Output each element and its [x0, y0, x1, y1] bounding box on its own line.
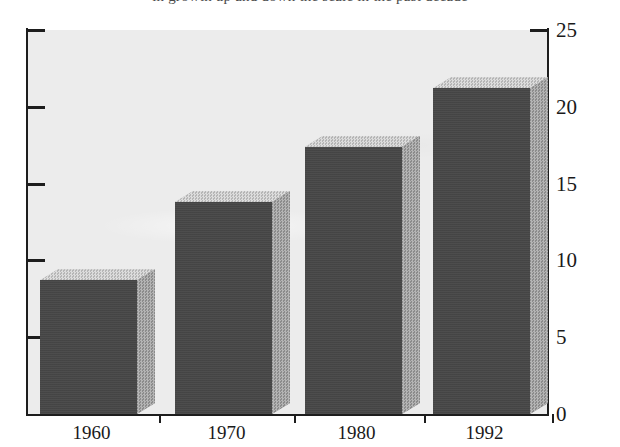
bar-front-face [175, 202, 272, 414]
bar-front-face [305, 147, 402, 414]
bar-top-face [175, 191, 290, 202]
x-axis-tick [294, 414, 296, 423]
bar-1970 [175, 191, 290, 414]
bar-chart-figure: in growth up and down the scale in the p… [0, 0, 620, 447]
y-axis-tick-label: 0 [556, 404, 567, 425]
x-axis-tick-label-1960: 1960 [73, 422, 111, 444]
cut-off-caption-text: in growth up and down the scale in the p… [0, 0, 620, 6]
y-axis-tick-label: 5 [556, 327, 567, 348]
y-axis-left-tick [28, 29, 45, 32]
bar-front-face [40, 280, 137, 414]
bar-side-face [272, 191, 290, 414]
x-axis-tick [552, 414, 554, 423]
bar-1980 [305, 136, 420, 414]
x-axis-tick-label-1970: 1970 [208, 422, 246, 444]
y-axis-right-tick [530, 29, 547, 32]
x-axis-tick [159, 414, 161, 423]
bar-top-face [305, 136, 420, 147]
x-axis-tick-label-1992: 1992 [466, 422, 504, 444]
y-axis-left-tick [28, 259, 45, 262]
bar-top-face [40, 269, 155, 280]
y-axis-tick-label: 20 [556, 96, 577, 117]
x-axis-tick [424, 414, 426, 423]
y-axis-left-spine [26, 28, 28, 416]
bar-1992 [433, 77, 548, 414]
bar-front-face [433, 88, 530, 414]
bar-1960 [40, 269, 155, 414]
bar-side-face [137, 269, 155, 414]
y-axis-tick-label: 10 [556, 250, 577, 271]
y-axis-tick-label: 15 [556, 173, 577, 194]
bar-top-face [433, 77, 548, 88]
bar-side-face [402, 136, 420, 414]
x-axis-spine [26, 414, 549, 416]
y-axis-left-tick [28, 106, 45, 109]
y-axis-tick-label: 25 [556, 20, 577, 41]
x-axis-tick-label-1980: 1980 [338, 422, 376, 444]
y-axis-left-tick [28, 183, 45, 186]
bar-side-face [530, 77, 548, 414]
